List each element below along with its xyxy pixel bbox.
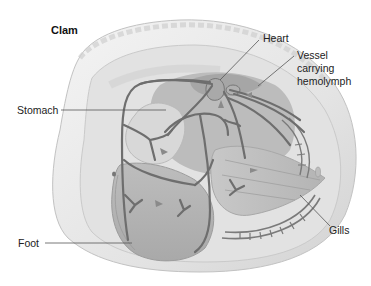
clam-illustration (0, 0, 371, 286)
clam-circulatory-diagram: Clam Heart Vessel carrying hemolymph Sto… (0, 0, 371, 286)
label-vessel-line2: carrying (297, 62, 334, 74)
label-vessel-line3: hemolymph (297, 75, 351, 87)
label-foot: Foot (18, 237, 39, 249)
label-vessel-line1: Vessel (297, 49, 328, 61)
label-gills: Gills (329, 224, 349, 236)
label-heart: Heart (263, 32, 289, 44)
label-stomach: Stomach (17, 104, 58, 116)
diagram-title: Clam (51, 24, 78, 36)
